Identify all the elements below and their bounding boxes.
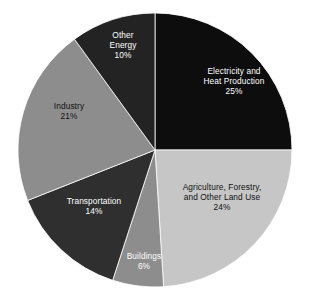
pie-slice: [155, 150, 292, 287]
pie-chart: Electricity and Heat Production 25% Agri…: [0, 0, 309, 299]
pie-chart-svg: [0, 0, 309, 299]
pie-slice: [155, 13, 292, 150]
